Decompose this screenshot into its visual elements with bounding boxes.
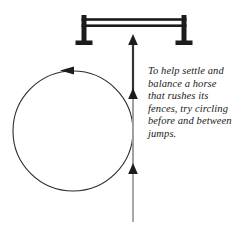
arrowhead-top-icon — [128, 34, 138, 45]
arrowhead-bottom-icon — [128, 163, 138, 174]
circling-path-circle — [13, 71, 133, 191]
approach-path-group — [128, 34, 138, 222]
circling-path-group — [13, 67, 133, 191]
jump-top-rail — [82, 18, 187, 21]
jump-bottom-rail — [82, 24, 187, 27]
figure-caption: To help settle and balance a horse that … — [148, 65, 234, 141]
jump-right-post-base — [176, 41, 193, 46]
jump-left-post-base — [76, 41, 93, 46]
diagram-canvas: To help settle and balance a horse that … — [0, 0, 237, 234]
arrowhead-middle-icon — [128, 88, 138, 99]
circle-arrowhead-icon — [60, 67, 74, 75]
